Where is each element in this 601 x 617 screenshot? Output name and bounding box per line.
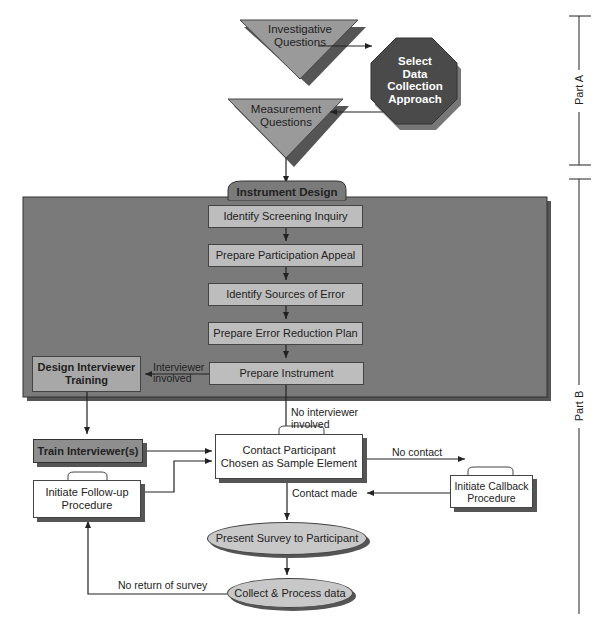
no-interviewer-line-2: involved <box>291 418 358 430</box>
select-line-4: Approach <box>372 93 458 106</box>
select-approach-label: Select Data Collection Approach <box>372 55 458 105</box>
contact-made-label: Contact made <box>292 487 357 500</box>
interviewer-involved-line-2: involved <box>153 373 204 384</box>
no-interviewer-line-1: No interviewer <box>291 406 358 418</box>
followup-line-1: Initiate Follow-up <box>45 486 128 499</box>
design-training-line-1: Design Interviewer <box>38 361 136 374</box>
no-contact-label: No contact <box>392 446 442 459</box>
step-prepare-instrument: Prepare Instrument <box>209 362 364 385</box>
no-interviewer-label: No interviewer involved <box>291 406 358 430</box>
contact-line-1: Contact Participant <box>243 444 336 457</box>
select-line-3: Collection <box>372 80 458 93</box>
design-interviewer-training-box: Design Interviewer Training <box>32 356 141 392</box>
measurement-line-2: Questions <box>241 116 331 129</box>
contact-participant-box: Contact Participant Chosen as Sample Ele… <box>215 434 363 479</box>
collect-process-ellipse: Collect & Process data <box>227 578 353 608</box>
interviewer-involved-label: Interviewer involved <box>153 362 204 384</box>
step-identify-error: Identify Sources of Error <box>208 283 363 306</box>
no-return-label: No return of survey <box>118 579 207 592</box>
measurement-line-1: Measurement <box>241 103 331 116</box>
instrument-design-title: Instrument Design <box>228 186 346 199</box>
contact-line-2: Chosen as Sample Element <box>221 457 357 470</box>
train-interviewers-box: Train Interviewer(s) <box>33 439 143 463</box>
part-a-label: Part A <box>573 70 585 110</box>
followup-procedure-box: Initiate Follow-up Procedure <box>33 480 141 518</box>
measurement-questions-label: Measurement Questions <box>241 103 331 129</box>
step-error-reduction: Prepare Error Reduction Plan <box>208 322 363 345</box>
callback-line-1: Initiate Callback <box>454 480 528 492</box>
callback-procedure-box: Initiate Callback Procedure <box>450 475 533 508</box>
investigative-line-1: Investigative <box>255 23 345 36</box>
investigative-questions-label: Investigative Questions <box>255 23 345 49</box>
step-prepare-appeal: Prepare Participation Appeal <box>208 244 363 267</box>
part-b-label: Part B <box>573 386 585 426</box>
design-training-line-2: Training <box>65 374 108 387</box>
step-identify-screening: Identify Screening Inquiry <box>208 205 363 228</box>
select-line-2: Data <box>372 68 458 81</box>
callback-line-2: Procedure <box>467 492 515 504</box>
investigative-line-2: Questions <box>255 36 345 49</box>
followup-line-2: Procedure <box>62 499 113 512</box>
present-survey-ellipse: Present Survey to Participant <box>207 522 367 555</box>
select-line-1: Select <box>372 55 458 68</box>
